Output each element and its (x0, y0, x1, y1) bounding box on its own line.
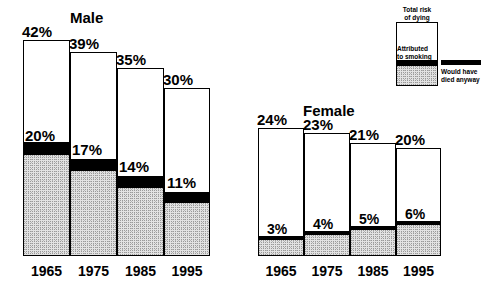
female-bar-1985[interactable] (350, 143, 396, 256)
male-bar-1965-smoking-label: 20% (25, 128, 55, 143)
legend-swatch-line (441, 60, 481, 65)
male-bar-1975-smoking-label: 17% (72, 142, 102, 157)
male-bar-1975-total-label: 39% (69, 36, 99, 51)
male-bar-1965-total-label: 42% (22, 24, 52, 39)
female-bar-1995-smoking-label: 6% (405, 207, 425, 221)
legend-label-attributed: Attributed to smoking (397, 45, 441, 60)
female-bar-1975[interactable] (304, 133, 350, 256)
female-bar-1965-smoking-label: 3% (267, 222, 287, 236)
male-bar-1985-segment-attributed-smoking (118, 176, 163, 188)
male-bar-1995[interactable] (164, 88, 210, 256)
male-bar-1995-smoking-label: 11% (167, 175, 196, 190)
female-xtick-1975: 1975 (304, 264, 350, 278)
male-bar-1975-segment-attributed-smoking (71, 159, 116, 171)
legend-label-total-risk: Total risk of dying (395, 6, 439, 21)
male-bar-1995-segment-attributed-smoking (165, 192, 209, 203)
chart-canvas: Male 42% 20% 39% 17% 35% 14% 30% 11% 196… (0, 0, 489, 291)
female-xtick-1965: 1965 (258, 264, 304, 278)
male-bar-1975-segment-died-anyway (71, 171, 116, 255)
male-xtick-1975: 1975 (70, 264, 117, 278)
male-bar-1985-total-label: 35% (116, 52, 146, 67)
female-bar-1975-smoking-label: 4% (313, 217, 333, 231)
female-bar-1985-smoking-label: 5% (359, 212, 379, 226)
male-bar-1965-segment-died-anyway (24, 155, 69, 255)
male-xtick-1985: 1985 (117, 264, 164, 278)
female-bar-1985-total-label: 21% (349, 127, 379, 142)
female-bar-1995[interactable] (396, 148, 441, 256)
female-bar-1965-total-label: 24% (257, 112, 287, 127)
male-bar-1985-smoking-label: 14% (119, 159, 149, 174)
female-bar-1975-total-label: 23% (303, 117, 333, 132)
female-bar-1995-total-label: 20% (395, 132, 425, 147)
male-bar-1985-segment-died-anyway (118, 188, 163, 255)
male-bar-1995-segment-died-anyway (165, 203, 209, 255)
female-xtick-1995: 1995 (396, 264, 441, 278)
male-bar-1995-total-label: 30% (163, 72, 193, 87)
female-xtick-1985: 1985 (350, 264, 396, 278)
male-xtick-1965: 1965 (23, 264, 70, 278)
female-bar-1985-segment-died-anyway (351, 230, 395, 255)
male-bar-1965[interactable] (23, 40, 70, 256)
male-panel-title: Male (70, 10, 103, 25)
male-xtick-1995: 1995 (164, 264, 210, 278)
legend-segment-died-anyway (397, 66, 437, 85)
female-bar-1975-segment-died-anyway (305, 235, 349, 255)
legend-segment-attributed-smoking (397, 60, 437, 66)
legend-label-died-anyway: Would have died anyway (441, 68, 487, 83)
female-bar-1995-segment-died-anyway (397, 225, 440, 255)
female-bar-1965-segment-died-anyway (259, 240, 303, 255)
